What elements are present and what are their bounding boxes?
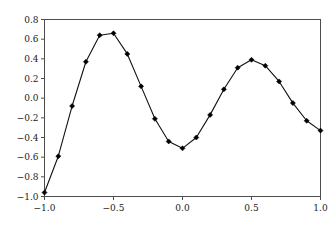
plot-area-frame (45, 20, 321, 197)
y-axis-tick-labels: −1.0−0.8−0.6−0.4−0.20.00.20.40.60.8 (17, 15, 39, 202)
data-point-marker (97, 33, 102, 38)
data-point-marker (70, 104, 75, 109)
line-chart-svg: −1.0−0.8−0.6−0.4−0.20.00.20.40.60.8 −1.0… (0, 0, 335, 230)
y-axis-tick-marks (41, 20, 45, 197)
y-tick-label: 0.8 (24, 15, 39, 25)
data-point-marker (152, 116, 157, 121)
y-tick-label: −0.2 (17, 113, 39, 123)
x-tick-label: 0.5 (244, 203, 259, 213)
y-tick-label: 0.0 (24, 93, 39, 103)
data-point-marker (42, 190, 47, 195)
y-tick-label: −0.6 (17, 152, 39, 162)
x-tick-label: 0.0 (175, 203, 190, 213)
x-tick-label: 1.0 (313, 203, 328, 213)
y-tick-label: 0.2 (24, 74, 38, 84)
data-point-marker (208, 112, 213, 117)
y-tick-label: −0.4 (17, 133, 39, 143)
data-point-marker (56, 154, 61, 159)
x-tick-label: −0.5 (103, 203, 125, 213)
data-point-marker (139, 84, 144, 89)
data-point-marker (83, 59, 88, 64)
x-axis-tick-marks (45, 197, 321, 201)
data-series-markers (42, 31, 323, 195)
y-tick-label: 0.4 (24, 54, 39, 64)
y-tick-label: −0.8 (17, 172, 39, 182)
x-tick-label: −1.0 (34, 203, 56, 213)
data-point-marker (249, 57, 254, 62)
x-axis-tick-labels: −1.0−0.50.00.51.0 (34, 203, 328, 213)
data-series-line (45, 33, 321, 192)
data-point-marker (166, 139, 171, 144)
y-tick-label: −1.0 (17, 192, 39, 202)
y-tick-label: 0.6 (24, 34, 39, 44)
chart-figure: −1.0−0.8−0.6−0.4−0.20.00.20.40.60.8 −1.0… (0, 0, 335, 230)
